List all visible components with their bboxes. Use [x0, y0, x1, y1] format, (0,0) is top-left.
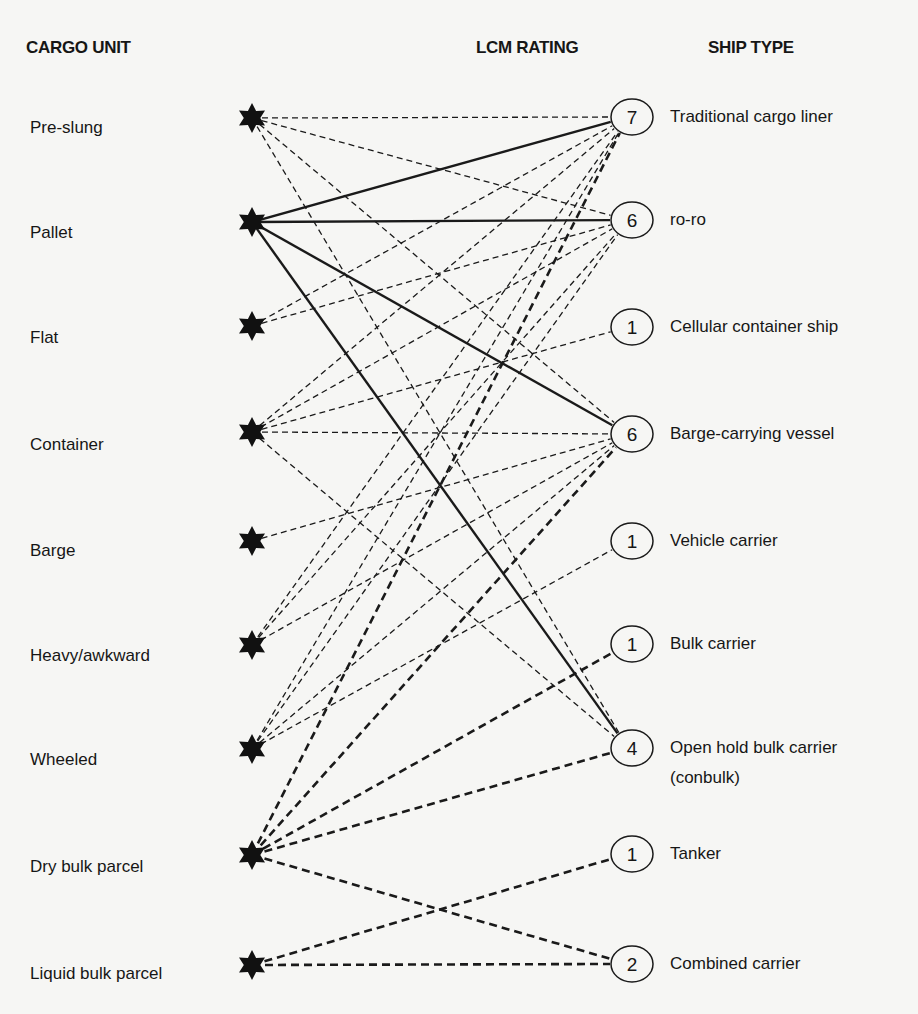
- connection-line-dashed: [252, 432, 610, 434]
- connection-line-heavy: [252, 133, 620, 855]
- ship-type-label: Vehicle carrier: [670, 530, 778, 552]
- cargo-unit-label: Flat: [30, 328, 58, 348]
- star-icon: [239, 950, 265, 980]
- lcm-rating-value: 1: [627, 844, 638, 865]
- ship-type-label: Combined carrier: [670, 953, 800, 975]
- connection-line-dashed: [252, 118, 611, 215]
- cargo-unit-label: Container: [30, 435, 104, 455]
- ship-type-label: Tanker: [670, 843, 721, 865]
- lcm-rating-badge: 6: [611, 416, 653, 452]
- ship-type-name: Cellular container ship: [670, 316, 838, 338]
- star-icon: [239, 526, 265, 556]
- lcm-rating-badge: 1: [611, 523, 653, 559]
- ship-type-label: Bulk carrier: [670, 633, 756, 655]
- lcm-rating-badge: 7: [611, 99, 653, 135]
- lcm-rating-badge: 1: [611, 626, 653, 662]
- lcm-rating-badge: 1: [611, 309, 653, 345]
- ship-type-name: Bulk carrier: [670, 633, 756, 655]
- ship-type-name: ro-ro: [670, 209, 706, 231]
- cargo-unit-label: Heavy/awkward: [30, 646, 150, 666]
- connection-line-solid: [252, 222, 612, 425]
- lcm-rating-circles: 761611412: [611, 99, 653, 982]
- lcm-rating-value: 1: [627, 531, 638, 552]
- ship-type-label: ro-ro: [670, 209, 706, 231]
- connection-line-dashed: [252, 332, 611, 432]
- connection-line-dashed: [252, 126, 612, 326]
- cargo-unit-label: Dry bulk parcel: [30, 857, 143, 877]
- lcm-rating-badge: 4: [611, 730, 653, 766]
- ship-type-subname: (conbulk): [670, 767, 837, 789]
- connection-line-dashed: [252, 118, 619, 733]
- connection-line-dashed: [252, 446, 614, 749]
- star-icon: [239, 103, 265, 133]
- cargo-unit-label: Barge: [30, 541, 75, 561]
- connection-line-heavy: [252, 964, 610, 965]
- star-icon: [239, 417, 265, 447]
- lcm-rating-value: 4: [627, 738, 638, 759]
- connection-line-solid: [252, 122, 611, 222]
- connection-lines: [252, 117, 620, 965]
- ship-type-label: Cellular container ship: [670, 316, 838, 338]
- cargo-unit-label: Pallet: [30, 223, 73, 243]
- connection-line-heavy: [252, 855, 611, 959]
- connection-line-heavy: [252, 653, 612, 855]
- ship-type-label: Open hold bulk carrier(conbulk): [670, 737, 837, 789]
- connection-line-dashed: [252, 118, 614, 422]
- lcm-rating-value: 7: [627, 107, 638, 128]
- lcm-rating-badge: 2: [611, 946, 653, 982]
- cargo-unit-label: Liquid bulk parcel: [30, 964, 162, 984]
- ship-type-name: Traditional cargo liner: [670, 106, 833, 128]
- lcm-rating-value: 6: [627, 210, 638, 231]
- connection-line-heavy: [252, 753, 611, 855]
- star-icon: [239, 311, 265, 341]
- connection-line-heavy: [252, 859, 611, 965]
- ship-type-name: Vehicle carrier: [670, 530, 778, 552]
- connection-line-solid: [252, 220, 610, 222]
- lcm-rating-value: 6: [627, 424, 638, 445]
- cargo-unit-label: Pre-slung: [30, 118, 103, 138]
- lcm-rating-value: 1: [627, 317, 638, 338]
- ship-type-label: Traditional cargo liner: [670, 106, 833, 128]
- connection-line-dashed: [252, 225, 611, 326]
- ship-type-label: Barge-carrying vessel: [670, 423, 834, 445]
- ship-type-name: Tanker: [670, 843, 721, 865]
- lcm-rating-badge: 6: [611, 202, 653, 238]
- connection-line-dashed: [252, 235, 618, 749]
- star-icon: [239, 734, 265, 764]
- lcm-rating-value: 2: [627, 954, 638, 975]
- ship-type-name: Barge-carrying vessel: [670, 423, 834, 445]
- ship-type-name: Combined carrier: [670, 953, 800, 975]
- connection-line-dashed: [252, 129, 614, 432]
- cargo-unit-label: Wheeled: [30, 750, 97, 770]
- connection-line-dashed: [252, 439, 611, 541]
- lcm-rating-value: 1: [627, 634, 638, 655]
- lcm-rating-badge: 1: [611, 836, 653, 872]
- ship-type-name: Open hold bulk carrier: [670, 737, 837, 759]
- connection-line-heavy: [252, 447, 616, 855]
- connection-line-dashed: [252, 117, 610, 118]
- connection-line-dashed: [252, 229, 612, 432]
